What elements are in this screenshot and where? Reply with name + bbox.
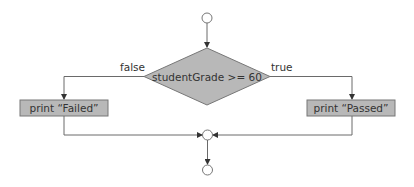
merge-node-icon (203, 130, 213, 140)
failed-label: print “Failed” (29, 102, 98, 114)
passed-action-node: print “Passed” (307, 100, 395, 116)
edge-passed-to-merge (213, 116, 352, 135)
passed-label: print “Passed” (314, 102, 389, 114)
decision-label: studentGrade >= 60 (152, 71, 262, 83)
true-label: true (271, 61, 293, 73)
edge-true-branch (270, 77, 352, 100)
false-label: false (120, 61, 145, 73)
flowchart-canvas: studentGrade >= 60 false true print “Fai… (0, 0, 414, 187)
edge-false-branch (64, 77, 144, 100)
failed-action-node: print “Failed” (20, 100, 108, 116)
start-node-icon (202, 13, 212, 23)
end-node-icon (203, 165, 213, 175)
edge-failed-to-merge (64, 116, 202, 135)
decision-node: studentGrade >= 60 (144, 48, 270, 105)
